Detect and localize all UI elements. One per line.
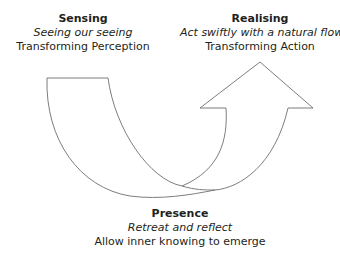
stage-presence-title: Presence	[80, 207, 280, 221]
stage-realising-title: Realising	[180, 12, 340, 26]
stage-presence-description: Allow inner knowing to emerge	[80, 235, 280, 249]
stage-sensing-title: Sensing	[8, 12, 158, 26]
u-arrow-shape	[47, 62, 313, 197]
stage-presence-subtitle: Retreat and reflect	[80, 221, 280, 235]
stage-realising-description: Transforming Action	[180, 40, 340, 54]
stage-realising-subtitle: Act swiftly with a natural flow	[180, 26, 340, 40]
stage-sensing-subtitle: Seeing our seeing	[8, 26, 158, 40]
stage-presence: Presence Retreat and reflect Allow inner…	[80, 207, 280, 249]
stage-sensing-description: Transforming Perception	[8, 40, 158, 54]
stage-sensing: Sensing Seeing our seeing Transforming P…	[8, 12, 158, 54]
stage-realising: Realising Act swiftly with a natural flo…	[180, 12, 340, 54]
